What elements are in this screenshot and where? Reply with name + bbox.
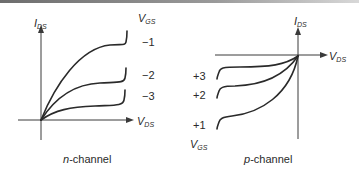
p-channel-caption: p-channel [243, 153, 292, 165]
n-channel-panel: IDS VGS −1 −2 −3 VDS n-channel [18, 12, 156, 165]
p-curve-label-1: +1 [193, 119, 206, 131]
p-y-axis-arrow-icon [295, 27, 301, 35]
p-channel-panel: IDS VDS +3 +2 +1 VGS p-channel [190, 15, 346, 165]
p-vgs-label: VGS [190, 138, 208, 151]
n-curve-label-3: −3 [142, 90, 155, 102]
p-curve-label-2: +2 [193, 89, 206, 101]
p-curve-vgs-3 [217, 56, 298, 79]
n-channel-caption: n-channel [63, 153, 111, 165]
n-x-axis-arrow-icon [126, 117, 134, 123]
p-curve-label-3: +3 [193, 70, 206, 82]
p-x-axis-arrow-icon [320, 52, 328, 58]
n-curve-label-1: −1 [142, 36, 155, 48]
n-vgs-label: VGS [138, 12, 156, 25]
fet-characteristics-diagram: IDS VGS −1 −2 −3 VDS n-channel IDS VDS +… [0, 0, 359, 184]
n-x-axis-label: VDS [137, 115, 154, 128]
p-y-axis-label: IDS [294, 15, 307, 28]
n-curve-label-2: −2 [142, 69, 155, 81]
n-y-axis-label: IDS [34, 17, 47, 30]
p-x-axis-label: VDS [329, 50, 346, 63]
